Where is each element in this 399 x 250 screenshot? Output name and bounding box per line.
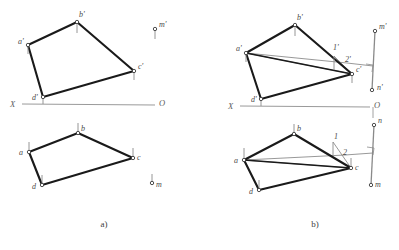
vertex-marker-d	[257, 188, 260, 191]
quadrilateral-horizontal	[244, 134, 351, 190]
quadrilateral-frontal	[28, 22, 134, 97]
vertex-label-d_prime: d'	[32, 93, 38, 102]
vertex-labels: a'b'c'd'	[18, 10, 144, 102]
panel-b-line-mn-frontal: m'n'	[366, 22, 387, 92]
panel-b-frontal-projection: a'b'c'd' 1'2'	[236, 13, 362, 106]
vertex-label-b_prime: b'	[297, 13, 303, 22]
quadrilateral-horizontal	[29, 133, 133, 185]
panel-a-frontal-projection: a'b'c'd'	[18, 10, 144, 104]
vertex-marker-undefined	[372, 123, 375, 126]
panel-b: X O a'b'c'd' 1'2'	[227, 13, 387, 229]
panel-b-horizontal-projection: abcd 12	[234, 124, 359, 196]
vertex-label-m: m	[156, 180, 162, 189]
panel-a-horizontal-projection: abcd	[19, 123, 141, 191]
vertex-label-undefined: n'	[377, 83, 383, 92]
vertex-marker-m_prime	[153, 27, 156, 30]
xo-axis-line	[22, 104, 155, 105]
vertex-label-a_prime: a'	[236, 44, 242, 53]
vertex-label-undefined: n	[378, 116, 382, 125]
vertex-label-c: c	[355, 163, 359, 172]
vertex-label-c_prime: c'	[356, 65, 362, 74]
vertex-label-a: a	[234, 156, 238, 165]
projection-tick-marks	[28, 22, 134, 104]
vertex-label-c: c	[137, 153, 141, 162]
diagonal-a-prime-c-prime	[246, 53, 352, 74]
vertex-label-undefined: m'	[379, 22, 387, 31]
vertex-marker-undefined	[373, 29, 376, 32]
vertex-label-two: 2	[343, 148, 347, 157]
vertex-markers	[27, 131, 134, 186]
vertex-marker-c	[349, 166, 352, 169]
vertex-label-undefined: m	[375, 180, 381, 189]
vertex-marker-a	[242, 158, 245, 161]
axis-label-o: O	[159, 98, 165, 108]
vertex-marker-d_prime	[41, 95, 44, 98]
vertex-marker-d	[40, 183, 43, 186]
axis-label-x: X	[9, 99, 16, 109]
vertex-label-b: b	[297, 124, 301, 133]
vertex-label-d: d	[249, 187, 254, 196]
vertex-label-one_prime: 1'	[333, 43, 339, 52]
caption-b: b)	[311, 219, 319, 229]
vertex-label-d_prime: d'	[251, 95, 257, 104]
caption-a: a)	[101, 219, 108, 229]
vertex-marker-undefined	[370, 88, 373, 91]
vertex-marker-a_prime	[26, 43, 29, 46]
diagonal-a-c	[244, 160, 351, 168]
panel-b-axis: X O	[227, 100, 380, 111]
panel-b-line-mn-horizontal: nm	[367, 116, 382, 189]
line-m-prime-n-prime	[372, 31, 375, 90]
vertex-label-two_prime: 2'	[345, 55, 351, 64]
axis-label-x: X	[227, 101, 234, 111]
vertex-label-a: a	[19, 148, 23, 157]
xo-axis-line	[240, 106, 370, 107]
line-m-n	[371, 125, 374, 185]
vertex-marker-b_prime	[293, 23, 296, 26]
vertex-label-b_prime: b'	[79, 10, 85, 19]
panel-b-horizontal-construction-lines	[244, 142, 373, 168]
vertex-label-a_prime: a'	[18, 37, 24, 46]
construction-line-two-to-mn	[345, 153, 373, 155]
vertex-label-c_prime: c'	[138, 62, 144, 71]
vertex-label-m_prime: m'	[159, 20, 167, 29]
descriptive-geometry-figure: X O a'b'c'd' abcd m'm a) X O	[0, 0, 399, 250]
vertex-marker-b_prime	[75, 20, 78, 23]
vertex-label-one: 1	[334, 132, 338, 141]
vertex-marker-c	[131, 156, 134, 159]
vertex-marker-c_prime	[132, 69, 135, 72]
vertex-marker-m	[150, 181, 153, 184]
vertex-marker-a_prime	[244, 51, 247, 54]
panel-a: X O a'b'c'd' abcd m'm a)	[9, 10, 167, 229]
vertex-label-b: b	[81, 124, 85, 133]
vertex-label-d: d	[32, 182, 37, 191]
axis-label-o: O	[374, 100, 380, 110]
vertex-marker-a	[27, 150, 30, 153]
vertex-marker-c_prime	[350, 72, 353, 75]
vertex-marker-b	[76, 131, 79, 134]
vertex-marker-b	[292, 132, 295, 135]
vertex-marker-d_prime	[259, 97, 262, 100]
figure-canvas: X O a'b'c'd' abcd m'm a) X O	[0, 0, 399, 250]
projection-tick-marks	[246, 25, 352, 106]
vertex-marker-undefined	[369, 183, 372, 186]
